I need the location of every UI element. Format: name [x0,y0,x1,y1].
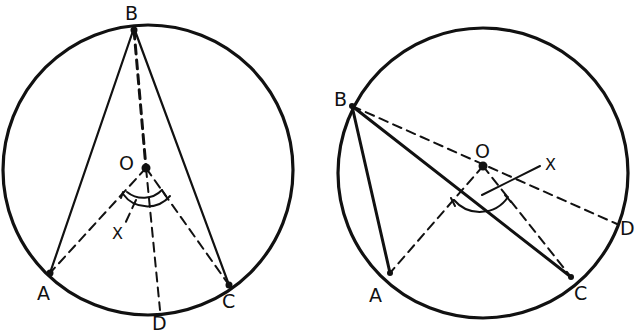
left-chord-BC [134,28,229,285]
right-point-A [387,270,393,276]
left-point-B [131,27,138,34]
right-bisector-OX [482,166,540,195]
right-label-X: X [545,155,556,174]
left-point-O [142,164,151,173]
left-dashed-OC [146,168,229,285]
left-arc-tick-1 [121,192,123,198]
left-dashed-OD [146,168,160,310]
left-angle-arc-inner [127,190,162,198]
left-label-A: A [37,282,50,304]
diagram-canvas: B O A C D X B O A C D X [0,0,636,336]
left-label-C: C [222,290,235,312]
left-label-B: B [125,2,138,24]
geometry-figure: B O A C D X B O A C D X [0,0,636,336]
left-label-X: X [112,224,123,243]
left-figure: B O A C D X [3,2,293,334]
right-dashed-OC [483,166,571,277]
left-bisector-OX [124,200,136,226]
right-figure: B O A C D X [334,28,635,318]
right-point-C [568,274,574,280]
right-point-B [349,103,355,109]
left-label-O: O [119,152,134,174]
right-circle [338,28,628,318]
right-label-A: A [369,284,382,306]
right-label-D: D [620,217,635,239]
right-label-B: B [334,88,347,110]
left-label-D: D [152,312,167,334]
right-label-C: C [574,282,587,304]
right-label-O: O [475,140,490,162]
right-dashed-OA [390,166,483,273]
left-point-A [47,270,54,277]
right-angle-arc [454,197,508,212]
left-dashed-BO [134,30,146,168]
left-dashed-OA [50,168,146,273]
left-point-C [226,282,233,289]
left-angle-arc-outer [123,194,170,206]
right-point-O [479,162,488,171]
